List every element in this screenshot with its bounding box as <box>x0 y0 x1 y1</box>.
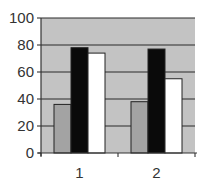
y-tick-label: 80 <box>17 36 34 53</box>
bar-1-cat-1 <box>54 104 71 153</box>
y-tick-label: 20 <box>17 117 34 134</box>
bar-chart: 020406080100 12 <box>0 0 207 192</box>
x-tick-label: 1 <box>75 164 83 181</box>
bar-1-cat-2 <box>131 102 148 153</box>
y-tick-label: 100 <box>9 9 34 26</box>
x-tick-label: 2 <box>152 164 160 181</box>
bar-3-cat-1 <box>88 53 105 153</box>
bar-2-cat-1 <box>71 48 88 153</box>
y-tick-label: 0 <box>26 144 34 161</box>
bar-2-cat-2 <box>148 49 165 153</box>
y-axis-ticks: 020406080100 <box>9 9 41 161</box>
y-tick-label: 40 <box>17 90 34 107</box>
bar-3-cat-2 <box>165 79 182 153</box>
y-tick-label: 60 <box>17 63 34 80</box>
x-axis-ticks: 12 <box>41 153 195 181</box>
